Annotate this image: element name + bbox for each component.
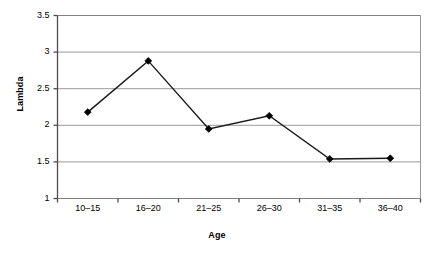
data-line [88,61,391,159]
y-tick-label: 2.5 [24,83,50,93]
x-tick-label: 26–30 [239,203,299,213]
y-tick-label: 3.5 [24,10,50,20]
y-tick-label: 1 [24,193,50,203]
line-chart: Lambda Age 11.522.533.510–1516–2021–2526… [0,0,434,253]
x-tick-label: 10–15 [58,203,118,213]
y-tick-label: 1.5 [24,156,50,166]
x-tick-label: 16–20 [118,203,178,213]
data-point-marker [387,155,394,162]
x-tick-label: 31–35 [300,203,360,213]
y-tick-label: 2 [24,119,50,129]
x-tick-label: 36–40 [360,203,420,213]
plot-area [0,0,434,253]
x-tick-label: 21–25 [179,203,239,213]
y-tick-label: 3 [24,46,50,56]
